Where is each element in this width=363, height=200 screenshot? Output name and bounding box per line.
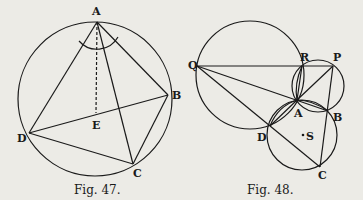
fig47-diagram (0, 0, 363, 200)
fig48-circle-QRDA (196, 21, 304, 129)
fig48-label-A: A (294, 108, 303, 119)
fig47-angle-arc (79, 37, 118, 49)
fig47-label-E: E (92, 120, 100, 131)
fig47-label-D: D (17, 133, 27, 144)
fig48-label-C: C (318, 170, 327, 181)
fig48-label-D: D (257, 132, 267, 143)
fig48-label-P: P (333, 52, 341, 63)
fig48-point-S (302, 134, 305, 137)
fig48-label-S: S (306, 131, 314, 142)
fig48-label-B: B (333, 112, 342, 123)
fig48-label-R: R (300, 52, 309, 63)
fig47-caption: Fig. 47. (74, 184, 121, 196)
fig48-label-Q: Q (188, 60, 198, 71)
fig47-label-B: B (172, 90, 181, 101)
fig47-label-C: C (133, 168, 142, 179)
fig48-caption: Fig. 48. (247, 184, 294, 196)
fig47-label-A: A (92, 6, 101, 17)
